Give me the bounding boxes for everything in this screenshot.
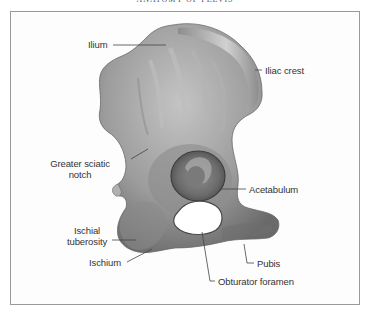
label-iliac-crest: Iliac crest <box>265 65 304 76</box>
label-obturator-foramen: Obturator foramen <box>218 276 294 287</box>
label-ischial-tuberosity: Ischial tuberosity <box>62 225 112 247</box>
leader-pubis <box>244 244 254 263</box>
label-pubis: Pubis <box>257 258 280 269</box>
label-greater-sciatic-notch: Greater sciatic notch <box>40 158 120 180</box>
hip-bone <box>99 24 279 253</box>
label-ischium: Ischium <box>89 257 121 268</box>
label-greater-sciatic-notch-line2: notch <box>40 169 120 180</box>
label-ischial-tuberosity-line2: tuberosity <box>62 236 112 247</box>
label-ilium: Ilium <box>88 39 108 50</box>
label-greater-sciatic-notch-line1: Greater sciatic <box>40 158 120 169</box>
label-acetabulum: Acetabulum <box>249 184 298 195</box>
label-ischial-tuberosity-line1: Ischial <box>62 225 112 236</box>
